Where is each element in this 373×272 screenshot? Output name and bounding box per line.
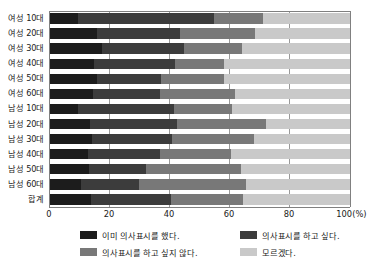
bar-segment [161, 74, 224, 84]
legend-swatch-icon [80, 231, 97, 239]
bar-segment [255, 28, 350, 38]
bar-segment [50, 194, 91, 204]
y-axis-label: 여성 50대 [0, 71, 44, 86]
stacked-bar [50, 28, 350, 38]
bar-segment [50, 134, 92, 144]
chart-row: 여성 40대 [0, 56, 373, 71]
bar-segment [246, 179, 350, 189]
bar-segment [50, 74, 97, 84]
bar-segment [97, 28, 180, 38]
bar-segment [214, 13, 263, 23]
legend-item[interactable]: 의사표시를 하고 싶다. [240, 228, 339, 241]
bar-segment [93, 89, 160, 99]
bar-segment [89, 164, 146, 174]
stacked-bar [50, 43, 350, 53]
x-axis-tick-label: 60 [224, 209, 235, 219]
chart-row: 여성 30대 [0, 41, 373, 56]
legend-swatch-icon [240, 231, 257, 239]
bar-segment [139, 179, 245, 189]
bar-segment [50, 179, 81, 189]
bar-segment [184, 43, 242, 53]
bar-segment [254, 134, 350, 144]
bar-segment [231, 149, 350, 159]
stacked-bar [50, 134, 350, 144]
bar-segment [97, 74, 161, 84]
stacked-bar [50, 194, 350, 204]
legend-swatch-icon [80, 248, 97, 256]
y-axis-label: 남성 30대 [0, 132, 44, 147]
x-axis-tick-label: 80 [284, 209, 295, 219]
stacked-bar [50, 179, 350, 189]
bar-segment [50, 59, 94, 69]
y-axis-label: 남성 60대 [0, 177, 44, 192]
bar-segment [50, 43, 102, 53]
bar-segment [50, 13, 78, 23]
y-axis-label: 여성 40대 [0, 56, 44, 71]
legend-swatch-icon [240, 248, 257, 256]
stacked-bar [50, 119, 350, 129]
x-axis-tick-label: 20 [104, 209, 115, 219]
legend-label: 의사표시를 하고 싶지 않다. [102, 246, 197, 258]
chart-row: 남성 60대 [0, 177, 373, 192]
bar-segment [235, 89, 350, 99]
bar-segment [81, 179, 139, 189]
stacked-bar [50, 89, 350, 99]
chart-row: 남성 20대 [0, 117, 373, 132]
chart-row: 남성 30대 [0, 132, 373, 147]
bar-segment [50, 149, 88, 159]
chart-row: 남성 40대 [0, 147, 373, 162]
y-axis-label: 합계 [0, 192, 44, 207]
y-axis-label: 여성 30대 [0, 41, 44, 56]
stacked-bar [50, 59, 350, 69]
bar-segment [50, 28, 97, 38]
legend-label: 모르겠다. [262, 246, 296, 258]
bar-segment [266, 119, 350, 129]
bar-segment [160, 89, 236, 99]
chart-row: 여성 50대 [0, 71, 373, 86]
bar-segment [91, 194, 171, 204]
bar-segment [92, 134, 172, 144]
y-axis-label: 여성 10대 [0, 11, 44, 26]
bar-segment [94, 59, 176, 69]
bar-segment [78, 13, 214, 23]
x-axis-tick-label: 0 [46, 209, 51, 219]
bar-segment [241, 164, 350, 174]
bar-segment [174, 104, 232, 114]
y-axis-label: 남성 20대 [0, 117, 44, 132]
y-axis-label: 남성 10대 [0, 101, 44, 116]
bar-segment [232, 104, 350, 114]
bar-segment [175, 59, 224, 69]
x-axis-tick-label: 40 [164, 209, 175, 219]
bar-segment [146, 164, 241, 174]
bar-segment [242, 43, 350, 53]
legend-item[interactable]: 이미 의사표시를 했다. [80, 228, 179, 241]
legend-label: 의사표시를 하고 싶다. [262, 229, 339, 241]
bar-segment [160, 149, 231, 159]
y-axis-label: 여성 60대 [0, 86, 44, 101]
x-axis-tick-labels: 020406080100(%) [0, 209, 373, 223]
bar-segment [171, 194, 243, 204]
bar-segment [263, 13, 350, 23]
stacked-bar [50, 164, 350, 174]
bar-segment [172, 134, 254, 144]
stacked-bar [50, 74, 350, 84]
chart-row: 남성 10대 [0, 101, 373, 116]
chart-row: 여성 10대 [0, 11, 373, 26]
chart-row: 여성 60대 [0, 86, 373, 101]
chart-legend: 이미 의사표시를 했다.의사표시를 하고 싶다.의사표시를 하고 싶지 않다.모… [0, 228, 373, 266]
legend-item[interactable]: 의사표시를 하고 싶지 않다. [80, 245, 197, 258]
bar-segment [90, 119, 177, 129]
bar-segment [50, 89, 93, 99]
bar-segment [102, 43, 184, 53]
bar-segment [78, 104, 174, 114]
chart-rows: 여성 10대여성 20대여성 30대여성 40대여성 50대여성 60대남성 1… [0, 11, 373, 207]
bar-segment [243, 194, 350, 204]
bar-segment [180, 28, 255, 38]
legend-item[interactable]: 모르겠다. [240, 245, 296, 258]
chart-row: 합계 [0, 192, 373, 207]
chart-row: 남성 50대 [0, 162, 373, 177]
legend-label: 이미 의사표시를 했다. [102, 229, 179, 241]
y-axis-label: 남성 50대 [0, 162, 44, 177]
bar-segment [224, 59, 350, 69]
bar-segment [88, 149, 160, 159]
